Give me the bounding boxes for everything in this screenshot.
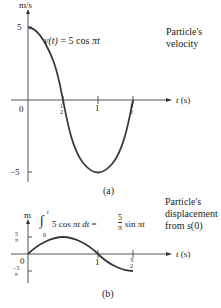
fraction-denominator: 2 [60,109,63,115]
displacement-y-axis-label: m [24,210,31,220]
equation-lhs: v(t) [44,35,58,46]
equation-rhs: = 5 cos [58,35,92,46]
caption-a: (a) [103,186,114,196]
integral-expression: 5 cos πt dt = [52,219,97,229]
annotation-text: (0) [191,220,203,231]
velocity-equation: v(t) = 5 cos πt [44,36,100,46]
upper-limit: t [47,209,49,215]
x-axis-unit: (s) [181,95,191,105]
equation-var: πt [92,35,100,46]
result-sine: sin πt [125,219,145,229]
fraction-denominator: π [15,237,18,243]
x-axis-unit: (s) [181,249,191,259]
annotation-line: Particle's [165,196,218,208]
y-tick-label-5-over-pi: 5 π [15,231,18,243]
annotation-line: from s(0) [165,220,218,232]
annotation-line: Particle's [166,26,202,38]
annotation-line: velocity [166,38,202,50]
displacement-x-axis-label: t (s) [176,249,190,259]
y-tick-label-5: 5 [17,22,22,32]
displacement-annotation: Particle's displacement from s(0) [165,196,218,232]
sin-text: sin [125,219,138,229]
x-tick-label-1: 1 [95,257,100,267]
x-axis-arrow-icon [166,98,172,102]
sin-var: πt [138,219,145,229]
fraction-denominator: π [118,223,122,232]
origin-label: 0 [20,256,25,266]
result-fraction: 5 π [118,213,122,232]
caption-b: (b) [102,289,114,299]
fraction-numerator: 5 [118,213,122,223]
velocity-x-axis-label: t (s) [176,95,190,105]
x-axis-arrow-icon [166,252,172,256]
integrand: 5 cos [52,219,73,229]
fraction-denominator: 2 [130,109,133,115]
origin-label: 0 [19,104,24,114]
integral-upper-limit: t [47,209,49,215]
annotation-line: displacement [165,208,218,220]
y-tick-label-neg5: −5 [10,167,20,177]
annotation-text: from [165,220,187,231]
integral-sign: ∫ [40,214,44,228]
integrand-var: πt dt [73,219,89,229]
x-axis-variable: t [176,95,179,105]
x-tick-label-3half: 3 2 [130,257,133,269]
equals-sign: = [89,219,96,229]
velocity-annotation: Particle's velocity [166,26,202,50]
x-tick-label-3half: 3 2 [130,103,133,115]
x-axis-variable: t [176,249,179,259]
integral-lower-limit: 0 [43,232,46,238]
fraction-denominator: π [13,271,19,277]
velocity-y-axis-label: m/s [19,0,32,10]
fraction-denominator: 2 [130,263,133,269]
x-tick-label-1: 1 [95,103,100,113]
x-tick-label-half: 1 2 [60,103,63,115]
y-tick-label-neg5-over-pi: −5 π [13,265,19,277]
